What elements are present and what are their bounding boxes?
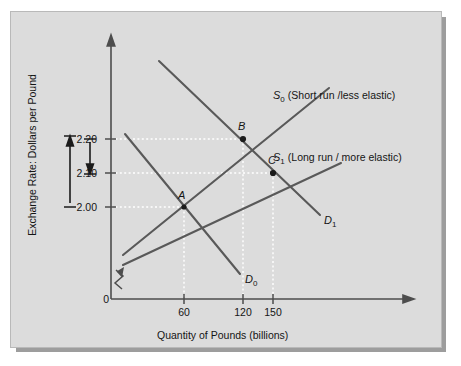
- curve-label-s1-subscript: 1: [280, 157, 284, 166]
- marker-point-a: [181, 204, 186, 209]
- curve-label-d1-subscript: 1: [332, 220, 336, 229]
- point-label-c: C: [268, 154, 276, 166]
- y-axis-title: Exchange Rate: Dollars per Pound: [26, 55, 38, 255]
- x-axis-arrowhead: [403, 295, 414, 303]
- curve-label-s0-subscript: 0: [280, 95, 284, 104]
- curve-label-s1-paren: (Long run / more elastic): [288, 151, 402, 163]
- marker-point-b: [240, 136, 246, 142]
- curve-label-d1-base: D: [324, 214, 332, 226]
- marker-point-c: [270, 170, 276, 176]
- curve-label-s0: S0 (Short run /less elastic): [273, 89, 395, 104]
- figure-panel: Exchange Rate: Dollars per Pound 2.20 2.…: [10, 11, 442, 348]
- x-tick-label-60: 60: [169, 306, 199, 318]
- curve-label-d0: D0: [245, 273, 257, 288]
- y-tick-label-220: 2.20: [63, 133, 97, 145]
- origin-label: 0: [75, 293, 109, 305]
- point-label-a: A: [178, 189, 185, 201]
- curve-s1: [123, 163, 341, 265]
- x-axis-title: Quantity of Pounds (billions): [157, 329, 288, 341]
- curve-label-d0-subscript: 0: [253, 279, 257, 288]
- y-tick-label-210: 2.10: [63, 167, 97, 179]
- point-label-b: B: [238, 120, 245, 132]
- y-tick-label-200: 2.00: [63, 201, 97, 213]
- curve-label-s1: S1 (Long run / more elastic): [273, 151, 402, 166]
- x-tick-label-120: 120: [228, 306, 258, 318]
- curve-d0: [125, 134, 240, 274]
- y-axis-arrowhead: [107, 35, 115, 46]
- curve-label-d1: D1: [324, 214, 336, 229]
- curve-s0: [123, 88, 329, 255]
- curve-label-s0-paren: (Short run /less elastic): [288, 89, 395, 101]
- x-tick-label-150: 150: [258, 306, 288, 318]
- curve-label-d0-base: D: [245, 273, 253, 285]
